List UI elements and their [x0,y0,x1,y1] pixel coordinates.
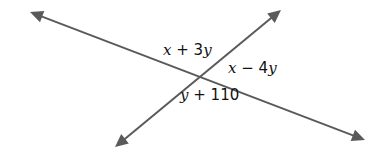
label-operator: + 110 [188,86,239,104]
intersecting-lines-diagram: x + 3y x − 4y y + 110 [0,0,373,156]
label-operator: − 4 [236,59,268,77]
angle-label-right: x − 4y [228,59,277,77]
angle-label-top: x + 3y [163,41,212,59]
line-2-segment [121,15,275,142]
label-variable: y [202,41,212,59]
label-operator: + 3 [171,41,203,59]
line-1 [30,11,365,141]
angle-label-bottom: y + 110 [179,86,239,104]
label-variable: y [267,59,277,77]
line-1-segment [37,15,357,137]
line-2 [115,10,281,147]
